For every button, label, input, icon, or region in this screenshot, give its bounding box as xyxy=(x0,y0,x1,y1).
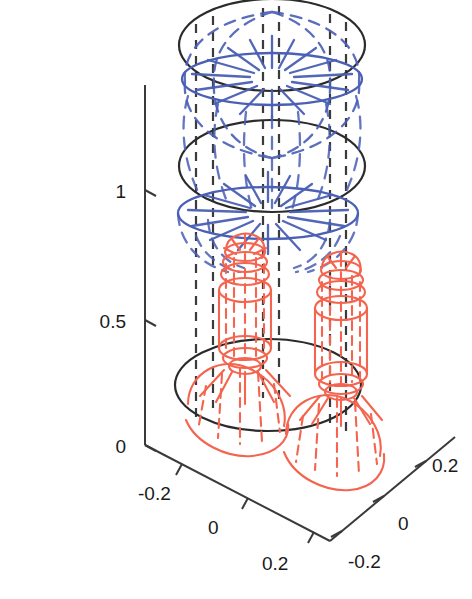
x-tick-label-0: 0 xyxy=(208,517,219,538)
plot-background xyxy=(0,0,472,599)
y-tick-label-neg-0-2: -0.2 xyxy=(348,551,381,572)
y-tick-label-0: 0 xyxy=(398,513,409,534)
z-tick-label-1: 1 xyxy=(115,181,126,202)
z-tick-label-0-5: 0.5 xyxy=(100,311,126,332)
y-tick-label-0-2: 0.2 xyxy=(432,455,458,476)
vector-field-3d-plot: 1 0.5 0 -0.2 0 0.2 -0.2 0 0.2 xyxy=(0,0,472,599)
x-tick-label-0-2: 0.2 xyxy=(262,553,288,574)
x-tick-label-neg-0-2: -0.2 xyxy=(138,483,171,504)
z-tick-label-0: 0 xyxy=(115,436,126,457)
